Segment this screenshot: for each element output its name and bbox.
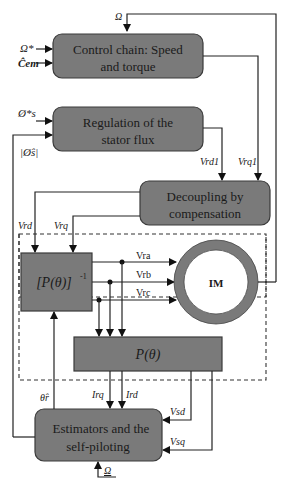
flux-ref-label: Ø*s bbox=[17, 107, 36, 119]
motor-label: IM bbox=[209, 277, 224, 289]
inverse-park-label: [P(θ)] bbox=[36, 275, 72, 291]
control-chain-label-2: and torque bbox=[100, 59, 155, 74]
irq-label: Irq bbox=[91, 389, 104, 400]
vsq-label: Vsq bbox=[170, 436, 185, 447]
vrd-line bbox=[35, 192, 140, 252]
vrq-label: Vrq bbox=[54, 220, 68, 231]
inverse-park-superscript: -1 bbox=[80, 272, 87, 281]
control-chain-label-1: Control chain: Speed bbox=[73, 42, 183, 57]
vrd1-line bbox=[203, 128, 222, 180]
vrd1-label: Vrd1 bbox=[200, 156, 219, 167]
theta-estimate-label: θ̂r bbox=[40, 392, 49, 403]
vrc-label: Vrc bbox=[136, 287, 151, 298]
vrq1-label: Vrq1 bbox=[238, 156, 257, 167]
torque-ref-label: Ĉem bbox=[18, 57, 39, 69]
decoupling-label-2: compensation bbox=[169, 206, 242, 221]
control-block-diagram: Ω Control chain: Speed and torque Ω* Ĉem… bbox=[0, 0, 287, 493]
ird-label: Ird bbox=[125, 389, 139, 400]
vsd-label: Vsd bbox=[170, 406, 186, 417]
vra-label: Vra bbox=[136, 250, 151, 261]
estimators-label-1: Estimators and the bbox=[53, 421, 150, 436]
vrd-label: Vrd bbox=[18, 220, 33, 231]
vrb-label: Vrb bbox=[136, 269, 151, 280]
omega-ref-label: Ω* bbox=[20, 42, 34, 54]
decoupling-label-1: Decoupling by bbox=[167, 189, 244, 204]
flux-estimate-label: |Ø̂s| bbox=[20, 146, 38, 158]
stator-flux-label-1: Regulation of the bbox=[83, 115, 173, 130]
omega-top-label: Ω bbox=[115, 11, 122, 22]
omega-bottom-label: Ω bbox=[104, 465, 111, 476]
park-label: P(θ) bbox=[135, 347, 161, 363]
estimators-label-2: self-piloting bbox=[66, 439, 130, 454]
stator-flux-label-2: stator flux bbox=[101, 132, 155, 147]
